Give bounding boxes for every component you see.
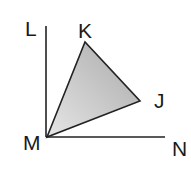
point-label-k: K [78, 19, 92, 42]
point-label-m: M [23, 131, 41, 154]
point-label-l: L [25, 17, 37, 40]
point-label-j: J [154, 89, 165, 112]
triangle-mkj [47, 42, 140, 137]
point-label-n: N [172, 137, 187, 160]
geometry-diagram: L K J M N [0, 0, 191, 173]
